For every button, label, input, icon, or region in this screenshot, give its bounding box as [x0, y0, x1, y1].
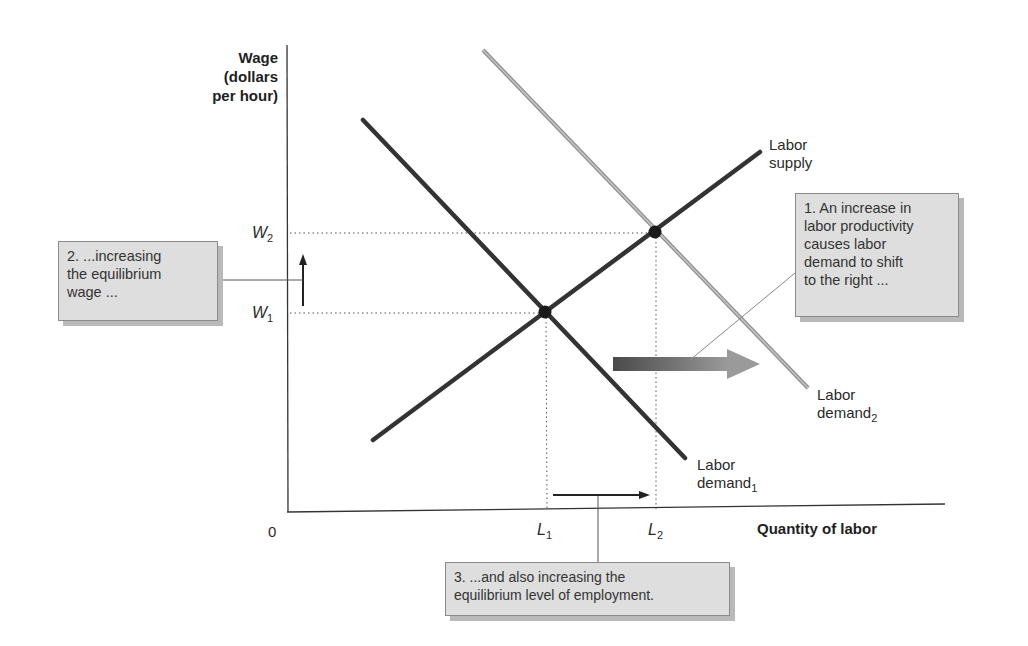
callout-wage-increase: 2. ...increasing the equilibrium wage ..… — [58, 241, 218, 321]
y-tick-w2: W2 — [252, 224, 273, 247]
y-axis — [287, 45, 288, 512]
y-axis-label-line-3: per hour) — [200, 86, 278, 105]
origin-label: 0 — [268, 523, 276, 541]
y-tick-w1: W1 — [252, 304, 273, 327]
x-axis — [287, 504, 945, 512]
labor-supply-curve — [373, 152, 760, 440]
labor-demand-1-curve — [363, 120, 685, 458]
x-tick-l2: L2 — [648, 521, 663, 544]
x-axis-label: Quantity of labor — [757, 520, 877, 538]
y-axis-label-line-1: Wage — [200, 48, 278, 67]
equilibrium-point-2 — [649, 226, 662, 239]
callout-productivity-shift: 1. An increase in labor productivity cau… — [795, 193, 959, 317]
callout-employment-increase: 3. ...and also increasing the equilibriu… — [445, 562, 730, 616]
equilibrium-point-1 — [539, 306, 552, 319]
employment-increase-arrow — [553, 491, 650, 499]
labor-market-chart: Wage (dollars per hour) W2 W1 0 L1 L2 Qu… — [0, 0, 1028, 646]
demand-shift-arrow — [613, 349, 760, 379]
labor-supply-label: Labor supply — [769, 136, 812, 172]
labor-demand-1-label: Labor demand1 — [697, 456, 757, 497]
l1-guide — [546, 313, 547, 511]
x-tick-l1: L1 — [537, 521, 552, 544]
chart-canvas — [0, 0, 1028, 646]
y-axis-label: Wage (dollars per hour) — [200, 48, 278, 105]
callout-1-leader — [690, 273, 795, 360]
y-axis-label-line-2: (dollars — [200, 67, 278, 86]
labor-demand-2-label: Labor demand2 — [817, 386, 877, 427]
labor-demand-2-curve — [483, 50, 808, 388]
